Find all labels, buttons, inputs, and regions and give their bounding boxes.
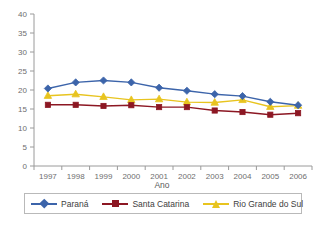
data-point-marker (239, 92, 246, 99)
x-tick-label: 1997 (39, 172, 57, 181)
legend-item-rio-grande-do-sul[interactable]: Rio Grande do Sul (189, 194, 303, 213)
data-point-marker (212, 108, 217, 113)
data-point-marker (129, 103, 134, 108)
x-tick-label: 2006 (289, 172, 307, 181)
y-tick-label: 35 (18, 29, 27, 38)
data-point-marker (155, 95, 162, 102)
legend-label-rio-grande-do-sul: Rio Grande do Sul (233, 199, 303, 209)
x-tick-label: 2002 (178, 172, 196, 181)
y-axis-ticks: 4035302520151050 (18, 10, 34, 171)
x-axis-title: Ano (154, 180, 169, 190)
data-point-marker (183, 87, 190, 94)
data-point-marker (101, 103, 106, 108)
caption-strip (0, 221, 324, 230)
legend-item-parana[interactable]: Paraná (25, 194, 88, 213)
y-tick-label: 25 (18, 67, 27, 76)
data-point-marker (72, 90, 79, 97)
chart-legend: Paraná Santa Catarina Rio Grande do Sul (24, 193, 302, 214)
x-tick-label: 2004 (234, 172, 252, 181)
data-point-marker (72, 79, 79, 86)
y-tick-label: 15 (18, 105, 27, 114)
x-tick-label: 2005 (261, 172, 279, 181)
y-tick-label: 20 (18, 86, 27, 95)
legend-marker-triangle-icon (203, 198, 229, 210)
y-tick-label: 10 (18, 124, 27, 133)
data-point-marker (73, 102, 78, 107)
series-layer (44, 77, 302, 117)
line-chart: 4035302520151050 19971998199920002001200… (0, 0, 324, 230)
legend-marker-diamond-icon (31, 198, 57, 210)
data-point-marker (157, 105, 162, 110)
data-point-marker (45, 102, 50, 107)
x-tick-label: 2000 (122, 172, 140, 181)
y-tick-label: 40 (18, 10, 27, 19)
y-tick-label: 5 (23, 143, 28, 152)
data-point-marker (44, 85, 51, 92)
y-tick-label: 30 (18, 48, 27, 57)
series-paran- (44, 77, 301, 109)
data-point-marker (156, 84, 163, 91)
data-point-marker (268, 112, 273, 117)
legend-label-parana: Paraná (61, 199, 88, 209)
data-point-marker (267, 98, 274, 105)
data-point-marker (211, 91, 218, 98)
data-point-marker (128, 79, 135, 86)
legend-item-santa-catarina[interactable]: Santa Catarina (88, 194, 189, 213)
data-point-marker (296, 111, 301, 116)
legend-marker-square-icon (102, 198, 128, 210)
x-axis-ticks: 1997199819992000200120022003200420052006 (34, 166, 312, 181)
data-point-marker (184, 105, 189, 110)
x-tick-label: 1999 (95, 172, 113, 181)
data-point-marker (100, 77, 107, 84)
legend-label-santa-catarina: Santa Catarina (132, 199, 189, 209)
x-tick-label: 1998 (67, 172, 85, 181)
x-tick-label: 2003 (206, 172, 224, 181)
data-point-marker (240, 109, 245, 114)
y-tick-label: 0 (23, 162, 28, 171)
